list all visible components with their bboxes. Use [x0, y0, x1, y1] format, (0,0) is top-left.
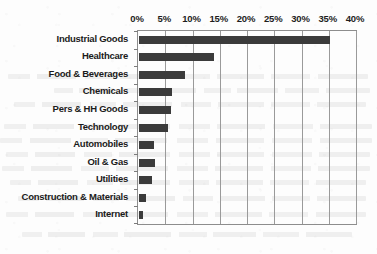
y-axis-tick-mark [134, 31, 138, 32]
bar [139, 36, 330, 44]
category-label: Technology [0, 121, 128, 132]
category-label: Utilities [0, 173, 128, 184]
y-axis-tick-mark [134, 154, 138, 155]
y-axis-tick-mark [134, 101, 138, 102]
bar [139, 124, 168, 132]
y-axis-tick-mark [134, 136, 138, 137]
category-axis-labels: Industrial GoodsHealthcareFood & Beverag… [0, 30, 133, 225]
gridline [220, 31, 221, 224]
gridline [356, 31, 357, 224]
y-axis-tick-mark [134, 84, 138, 85]
category-label: Construction & Materials [0, 191, 128, 202]
gridline [274, 31, 275, 224]
bar [139, 53, 214, 61]
bar-chart: 0%5%10%15%20%25%30%35%40% Industrial Goo… [0, 0, 377, 254]
bar [139, 176, 152, 184]
gridline [302, 31, 303, 224]
bar [139, 159, 155, 167]
y-axis-tick-mark [134, 66, 138, 67]
category-label: Food & Beverages [0, 68, 128, 79]
bar [139, 88, 172, 96]
gridline [247, 31, 248, 224]
bar [139, 211, 143, 219]
category-label: Industrial Goods [0, 33, 128, 44]
category-label: Internet [0, 208, 128, 219]
y-axis-tick-mark [134, 119, 138, 120]
y-axis-tick-mark [134, 49, 138, 50]
category-label: Healthcare [0, 50, 128, 61]
bar [139, 141, 154, 149]
plot-area [137, 30, 357, 225]
x-axis-tick-labels: 0%5%10%15%20%25%30%35%40% [137, 13, 357, 25]
category-label: Automobiles [0, 138, 128, 149]
category-label: Pers & HH Goods [0, 103, 128, 114]
bar [139, 71, 185, 79]
gridline [329, 31, 330, 224]
y-axis-tick-mark [134, 189, 138, 190]
y-axis-tick-mark [134, 223, 138, 224]
bar [139, 106, 171, 114]
category-label: Chemicals [0, 85, 128, 96]
x-axis-tick-label: 40% [335, 13, 375, 25]
bar [139, 194, 146, 202]
y-axis-tick-mark [134, 171, 138, 172]
category-label: Oil & Gas [0, 156, 128, 167]
y-axis-tick-mark [134, 206, 138, 207]
